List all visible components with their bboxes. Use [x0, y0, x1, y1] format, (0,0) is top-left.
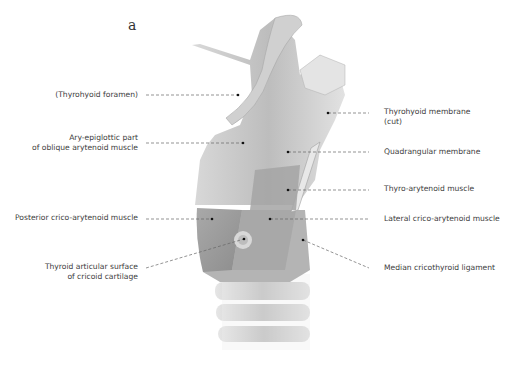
label-thyro-arytenoid: Thyro-arytenoid muscle	[384, 184, 474, 194]
label-lateral-crico-arytenoid: Lateral crico-arytenoid muscle	[384, 214, 500, 224]
label-ary-epiglottic-part: Ary-epiglottic part of oblique arytenoid…	[32, 133, 138, 153]
label-thyrohyoid-membrane: Thyrohyoid membrane (cut)	[384, 107, 470, 127]
label-thyroid-articular-surface: Thyroid articular surface of cricoid car…	[45, 262, 138, 282]
larynx-figure: a	[0, 0, 513, 381]
label-thyrohyoid-foramen: (Thyrohyoid foramen)	[55, 90, 138, 100]
label-posterior-crico-arytenoid: Posterior crico-arytenoid muscle	[15, 213, 138, 223]
trachea	[215, 274, 310, 350]
label-median-cricothyroid-ligament: Median cricothyroid ligament	[384, 263, 495, 273]
label-quadrangular-membrane: Quadrangular membrane	[384, 147, 480, 157]
